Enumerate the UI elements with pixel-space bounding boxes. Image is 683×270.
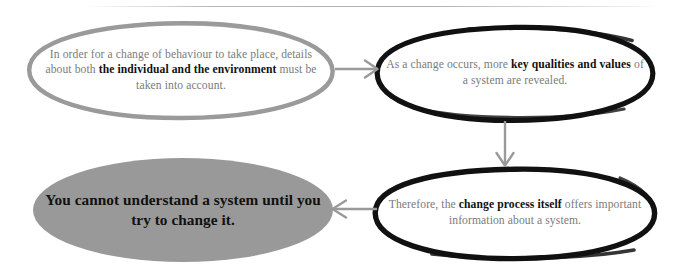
node-conclusion-body: You cannot understand a system until you…	[33, 190, 333, 231]
node-behaviour-body: In order for a change of behaviour to ta…	[26, 47, 336, 94]
node-conclusion-text: You cannot understand a system until you…	[33, 190, 333, 231]
node-process-text: Therefore, the change process itself off…	[372, 197, 658, 228]
node-qualities-body: As a change occurs, more key qualities a…	[374, 57, 656, 88]
diagram-canvas: In order for a change of behaviour to ta…	[0, 0, 683, 270]
node-process-body: Therefore, the change process itself off…	[372, 197, 658, 228]
node-conclusion[interactable]: You cannot understand a system until you…	[33, 158, 333, 262]
node-qualities[interactable]: As a change occurs, more key qualities a…	[374, 24, 656, 122]
node-behaviour[interactable]: In order for a change of behaviour to ta…	[26, 20, 336, 120]
node-behaviour-text: In order for a change of behaviour to ta…	[26, 47, 336, 94]
arrow-process-to-conclusion	[330, 196, 378, 222]
top-divider-rule	[85, 6, 655, 7]
node-qualities-text: As a change occurs, more key qualities a…	[374, 57, 656, 88]
arrow-qualities-to-process	[492, 120, 518, 168]
node-process[interactable]: Therefore, the change process itself off…	[372, 166, 658, 260]
